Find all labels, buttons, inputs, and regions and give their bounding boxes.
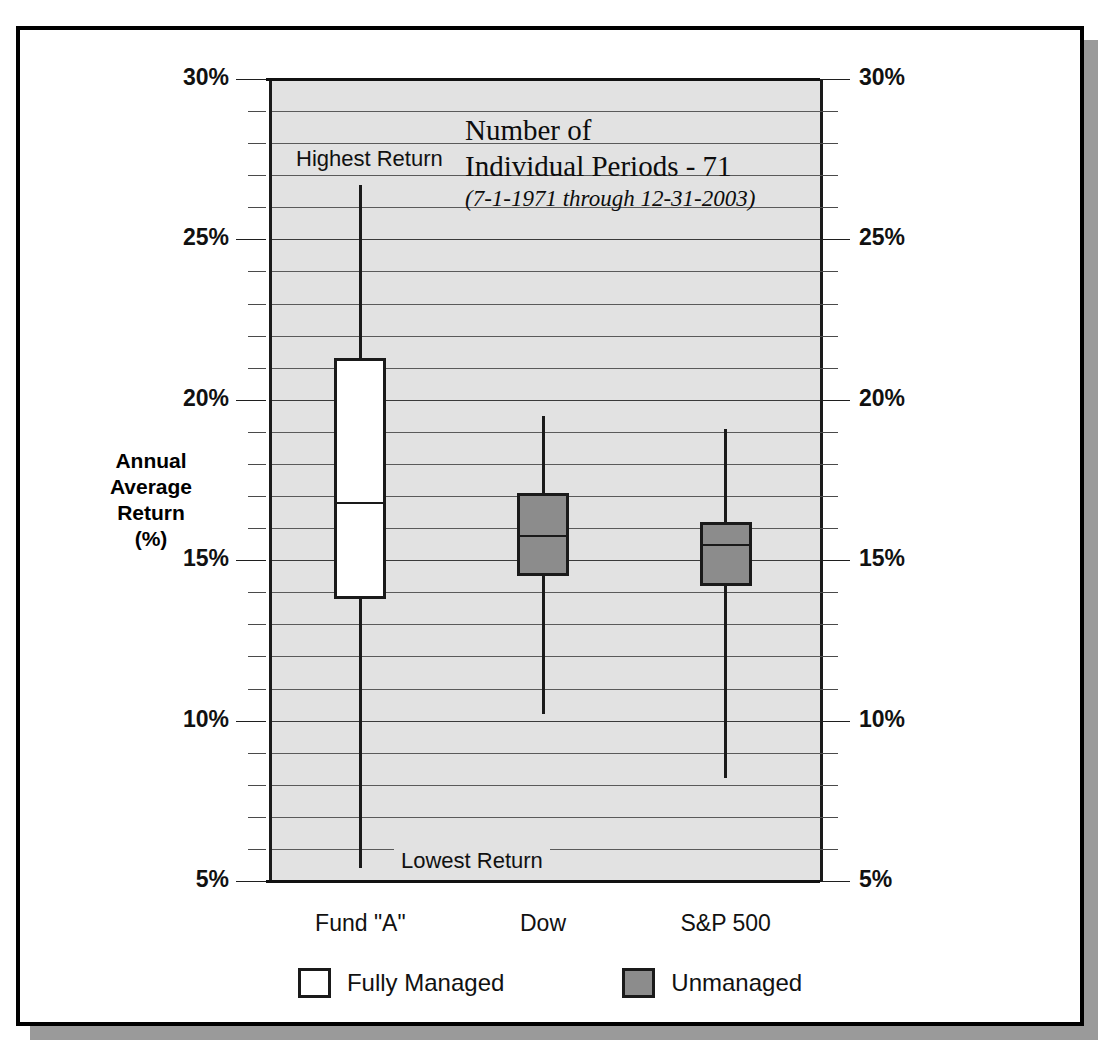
gridline-11 — [272, 689, 820, 690]
y-tick-left-19 — [248, 432, 266, 433]
y-tick-label-right-15: 15% — [859, 545, 994, 572]
y-tick-right-11 — [820, 689, 838, 690]
axis-rule-bottom — [266, 880, 820, 883]
y-tick-right-30 — [820, 79, 850, 80]
y-tick-left-18 — [248, 464, 266, 465]
y-tick-right-10 — [820, 721, 850, 722]
legend-label-fully-managed: Fully Managed — [347, 969, 504, 997]
y-tick-left-5 — [236, 881, 266, 882]
annotation-note-line-2: Individual Periods - 71 — [465, 148, 755, 184]
y-tick-left-13 — [248, 624, 266, 625]
y-tick-left-21 — [248, 368, 266, 369]
y-tick-left-9 — [248, 753, 266, 754]
y-tick-right-8 — [820, 785, 838, 786]
y-tick-right-26 — [820, 207, 838, 208]
median-line-0 — [334, 502, 386, 504]
y-axis-title-line-1: Annual — [76, 448, 226, 474]
legend-label-unmanaged: Unmanaged — [671, 969, 802, 997]
legend-swatch-fully-managed — [298, 968, 331, 998]
y-tick-left-8 — [248, 785, 266, 786]
y-tick-right-24 — [820, 271, 838, 272]
y-tick-label-left-20: 20% — [94, 385, 229, 412]
plot-wrapper: Annual Average Return (%) 30%30%25%25%20… — [20, 30, 1088, 1030]
y-tick-label-left-10: 10% — [94, 706, 229, 733]
gridline-10 — [272, 721, 820, 722]
y-tick-right-13 — [820, 624, 838, 625]
y-tick-left-28 — [248, 143, 266, 144]
gridline-13 — [272, 624, 820, 625]
legend-item-unmanaged: Unmanaged — [622, 968, 802, 998]
y-tick-right-15 — [820, 560, 850, 561]
box-0 — [334, 358, 386, 599]
y-tick-label-left-5: 5% — [94, 866, 229, 893]
category-label-2: S&P 500 — [616, 910, 836, 937]
y-tick-label-left-25: 25% — [94, 224, 229, 251]
y-tick-left-24 — [248, 271, 266, 272]
whisker-2 — [724, 429, 727, 779]
legend-item-fully-managed: Fully Managed — [298, 968, 504, 998]
y-tick-right-5 — [820, 881, 850, 882]
y-tick-left-14 — [248, 592, 266, 593]
y-axis-title-line-3: Return — [76, 500, 226, 526]
y-tick-left-23 — [248, 304, 266, 305]
y-tick-left-15 — [236, 560, 266, 561]
y-tick-label-right-20: 20% — [859, 385, 994, 412]
y-tick-right-29 — [820, 111, 838, 112]
gridline-8 — [272, 785, 820, 786]
y-tick-right-14 — [820, 592, 838, 593]
y-tick-left-7 — [248, 817, 266, 818]
y-tick-label-right-30: 30% — [859, 64, 994, 91]
chart-panel: Annual Average Return (%) 30%30%25%25%20… — [16, 26, 1084, 1026]
y-tick-right-7 — [820, 817, 838, 818]
y-tick-right-19 — [820, 432, 838, 433]
annotation-lowest-return: Lowest Return — [394, 847, 550, 875]
y-tick-right-25 — [820, 239, 850, 240]
median-line-1 — [517, 535, 569, 537]
y-tick-right-23 — [820, 304, 838, 305]
gridline-7 — [272, 817, 820, 818]
y-tick-right-20 — [820, 400, 850, 401]
y-tick-right-21 — [820, 368, 838, 369]
y-tick-right-9 — [820, 753, 838, 754]
y-tick-left-27 — [248, 175, 266, 176]
y-tick-left-12 — [248, 656, 266, 657]
chart-page: Annual Average Return (%) 30%30%25%25%20… — [0, 0, 1106, 1050]
y-tick-left-10 — [236, 721, 266, 722]
y-tick-label-right-5: 5% — [859, 866, 994, 893]
median-line-2 — [700, 544, 752, 546]
y-tick-right-6 — [820, 849, 838, 850]
y-tick-right-22 — [820, 336, 838, 337]
y-tick-left-25 — [236, 239, 266, 240]
y-axis-title: Annual Average Return (%) — [76, 448, 226, 552]
gridline-24 — [272, 271, 820, 272]
y-tick-left-16 — [248, 528, 266, 529]
axis-rule-top — [266, 78, 820, 81]
y-tick-label-left-30: 30% — [94, 64, 229, 91]
y-tick-label-left-15: 15% — [94, 545, 229, 572]
legend-swatch-unmanaged — [622, 968, 655, 998]
annotation-highest-return: Highest Return — [289, 145, 450, 173]
y-tick-right-18 — [820, 464, 838, 465]
y-tick-left-11 — [248, 689, 266, 690]
chart-legend: Fully Managed Unmanaged — [20, 968, 1080, 998]
annotation-note-line-1: Number of — [465, 112, 755, 148]
y-tick-left-6 — [248, 849, 266, 850]
y-tick-left-29 — [248, 111, 266, 112]
y-tick-right-28 — [820, 143, 838, 144]
y-tick-right-16 — [820, 528, 838, 529]
gridline-12 — [272, 656, 820, 657]
y-tick-left-30 — [236, 79, 266, 80]
y-tick-left-17 — [248, 496, 266, 497]
annotation-note-line-3: (7-1-1971 through 12-31-2003) — [465, 184, 755, 214]
y-tick-right-17 — [820, 496, 838, 497]
gridline-9 — [272, 753, 820, 754]
annotation-note-block: Number ofIndividual Periods - 71(7-1-197… — [465, 112, 755, 214]
y-tick-left-22 — [248, 336, 266, 337]
y-tick-left-20 — [236, 400, 266, 401]
y-axis-title-line-2: Average — [76, 474, 226, 500]
gridline-22 — [272, 336, 820, 337]
y-tick-label-right-10: 10% — [859, 706, 994, 733]
y-tick-label-right-25: 25% — [859, 224, 994, 251]
y-tick-left-26 — [248, 207, 266, 208]
y-tick-right-27 — [820, 175, 838, 176]
